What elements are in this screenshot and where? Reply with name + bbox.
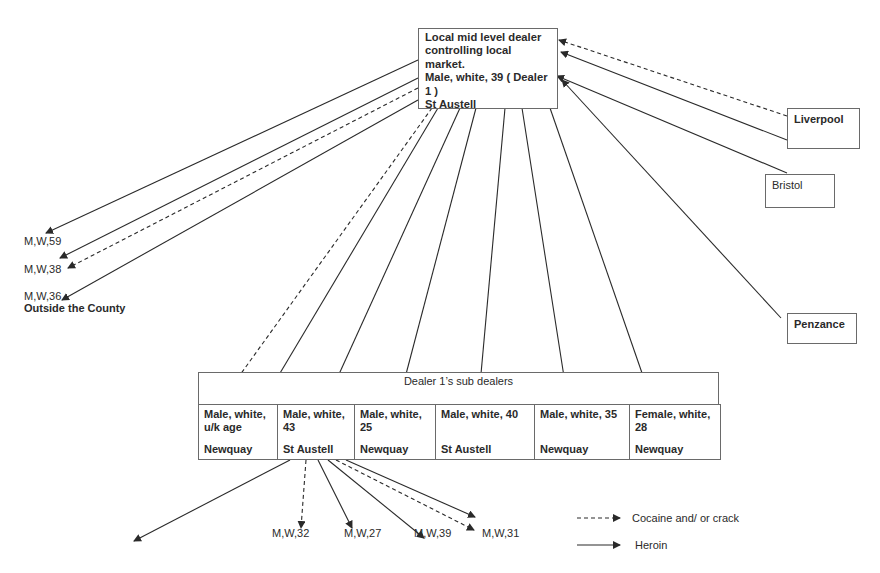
sub-dealer-location: St Austell [283, 443, 333, 456]
sub-dealer-cell: Male, white, 25 Newquay [355, 405, 436, 459]
source-box-liverpool: Liverpool [787, 108, 860, 149]
sub-dealer-location: St Austell [441, 443, 491, 456]
sub-dealers-row: Male, white, u/k age Newquay Male, white… [198, 404, 721, 460]
sub-dealers-title: Dealer 1’s sub dealers [404, 375, 513, 387]
source-label: Bristol [772, 179, 803, 191]
buyer-label: M,W,36 [24, 290, 61, 302]
source-box-bristol: Bristol [765, 174, 835, 208]
legend-solid-label: Heroin [635, 539, 667, 551]
source-label: Penzance [794, 318, 845, 330]
outside-county-label: Outside the County [24, 302, 125, 314]
sub-dealer-cell: Male, white, u/k age Newquay [199, 405, 278, 459]
buyer-label: M,W,38 [24, 263, 61, 275]
main-dealer-line: market. [425, 58, 551, 71]
sub-dealer-desc: Female, white, 28 [635, 408, 715, 434]
sub-dealer-location: Newquay [204, 443, 252, 456]
sub-dealer-location: Newquay [360, 443, 408, 456]
buyer-label: M,W,59 [24, 235, 61, 247]
sub-dealer-cell: Male, white, 43 St Austell [278, 405, 355, 459]
buyer-label: M,W,31 [482, 527, 519, 539]
sub-dealer-cell: Female, white, 28 Newquay [630, 405, 720, 459]
main-dealer-line: Male, white, 39 ( Dealer [425, 71, 551, 84]
sub-dealer-desc: Male, white, 43 [283, 408, 349, 434]
sub-dealer-location: Newquay [635, 443, 683, 456]
main-dealer-box: Local mid level dealer controlling local… [418, 28, 558, 109]
sub-dealer-cell: Male, white, 40 St Austell [436, 405, 535, 459]
main-dealer-line: St Austell [425, 98, 551, 111]
source-box-penzance: Penzance [787, 313, 857, 344]
sub-dealer-desc: Male, white, 40 [441, 408, 529, 421]
main-dealer-line: controlling local [425, 44, 551, 57]
buyer-label: M,W,39 [414, 527, 451, 539]
source-label: Liverpool [794, 113, 844, 125]
buyer-label: M,W,32 [272, 527, 309, 539]
sub-dealer-desc: Male, white, 25 [360, 408, 430, 434]
legend-dashed-label: Cocaine and/ or crack [632, 512, 739, 524]
sub-dealers-header: Dealer 1’s sub dealers [198, 372, 719, 405]
main-dealer-line: Local mid level dealer [425, 31, 551, 44]
sub-dealer-desc: Male, white, 35 [540, 408, 624, 421]
sub-dealer-desc: Male, white, u/k age [204, 408, 272, 434]
sub-dealer-cell: Male, white, 35 Newquay [535, 405, 630, 459]
buyer-label: M,W,27 [344, 527, 381, 539]
main-dealer-line: 1 ) [425, 85, 551, 98]
sub-dealer-location: Newquay [540, 443, 588, 456]
